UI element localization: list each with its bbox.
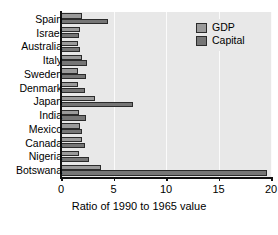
x-tick-mark-5 xyxy=(114,177,116,181)
bar-denmark-capital xyxy=(61,88,85,93)
gridline-5 xyxy=(114,12,115,177)
x-tick-label-10: 10 xyxy=(151,183,181,195)
bar-spain-gdp xyxy=(61,13,82,18)
bar-denmark-gdp xyxy=(61,82,78,87)
x-tick-label-5: 5 xyxy=(99,183,129,195)
bar-botswana-capital xyxy=(61,170,267,175)
bar-sweden-capital xyxy=(61,74,86,79)
bar-italy-capital xyxy=(61,60,87,65)
x-tick-mark-20 xyxy=(271,177,273,181)
legend-item-gdp: GDP xyxy=(196,22,245,33)
bar-japan-capital xyxy=(61,102,133,107)
legend-label-capital: Capital xyxy=(212,35,245,46)
category-label-spain: Spain xyxy=(35,14,62,24)
bar-australia-gdp xyxy=(61,41,78,46)
gridline-10 xyxy=(166,12,167,177)
bar-india-gdp xyxy=(61,110,79,115)
legend-swatch-capital xyxy=(196,36,207,46)
bar-mexico-capital xyxy=(61,129,82,134)
legend-swatch-gdp xyxy=(196,23,207,33)
bar-israel-capital xyxy=(61,33,79,38)
category-label-italy: Italy xyxy=(43,55,62,65)
bar-canada-capital xyxy=(61,143,85,148)
x-tick-label-15: 15 xyxy=(204,183,234,195)
bar-nigeria-gdp xyxy=(61,151,79,156)
bar-italy-gdp xyxy=(61,55,82,60)
category-label-sweden: Sweden xyxy=(24,69,62,79)
x-tick-mark-10 xyxy=(166,177,168,181)
category-label-nigeria: Nigeria xyxy=(29,151,62,161)
category-label-japan: Japan xyxy=(33,96,62,106)
category-label-india: India xyxy=(39,110,62,120)
x-tick-mark-0 xyxy=(61,177,63,181)
bar-japan-gdp xyxy=(61,96,95,101)
category-label-denmark: Denmark xyxy=(19,83,62,93)
bar-canada-gdp xyxy=(61,137,82,142)
x-tick-mark-15 xyxy=(219,177,221,181)
legend-item-capital: Capital xyxy=(196,35,245,46)
bar-spain-capital xyxy=(61,19,108,24)
x-tick-label-0: 0 xyxy=(46,183,76,195)
x-axis-title: Ratio of 1990 to 1965 value xyxy=(0,200,278,212)
bar-nigeria-capital xyxy=(61,157,89,162)
category-label-australia: Australia xyxy=(21,41,62,51)
category-label-mexico: Mexico xyxy=(29,124,62,134)
bar-sweden-gdp xyxy=(61,68,78,73)
bar-india-capital xyxy=(61,115,86,120)
category-label-botswana: Botswana xyxy=(16,165,62,175)
bar-mexico-gdp xyxy=(61,123,80,128)
category-label-canada: Canada xyxy=(25,138,62,148)
bar-australia-capital xyxy=(61,47,80,52)
legend-label-gdp: GDP xyxy=(212,22,235,33)
legend: GDP Capital xyxy=(193,19,248,51)
category-label-israel: Israel xyxy=(36,28,62,38)
bar-botswana-gdp xyxy=(61,165,101,170)
x-tick-label-20: 20 xyxy=(256,183,278,195)
bar-israel-gdp xyxy=(61,27,80,32)
bar-chart: SpainIsraelAustraliaItalySwedenDenmarkJa… xyxy=(0,0,278,235)
gridline-20 xyxy=(271,12,272,177)
